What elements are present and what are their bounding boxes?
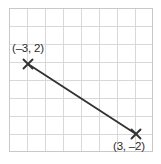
point-label-b: (3, –2) bbox=[113, 141, 145, 153]
coordinate-grid-figure: (–3, 2) (3, –2) bbox=[0, 0, 161, 164]
point-label-a: (–3, 2) bbox=[12, 43, 44, 55]
